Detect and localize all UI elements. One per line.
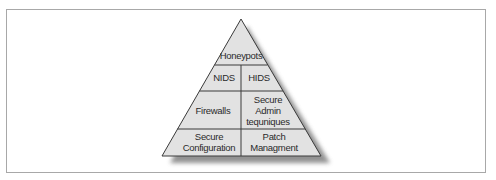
label-secure-config-line2: Configuration	[183, 142, 236, 153]
label-nids: NIDS	[213, 72, 235, 83]
label-hids: HIDS	[248, 72, 270, 83]
tier-honeypots: Honeypots	[220, 50, 263, 61]
label-secure-config-line1: Secure	[195, 131, 223, 142]
label-patch-mgmt-line1: Patch	[263, 131, 286, 142]
label-secure-admin-line2: Admin	[255, 105, 280, 116]
label-patch-mgmt-line2: Managment	[250, 142, 298, 153]
label-secure-admin-line3: tequniques	[246, 116, 290, 127]
label-secure-admin-line1: Secure	[254, 94, 282, 105]
label-firewalls: Firewalls	[196, 105, 231, 116]
label-honeypots: Honeypots	[220, 50, 263, 61]
security-pyramid-diagram: Honeypots NIDS HIDS Firewalls Secure Adm…	[0, 0, 496, 180]
